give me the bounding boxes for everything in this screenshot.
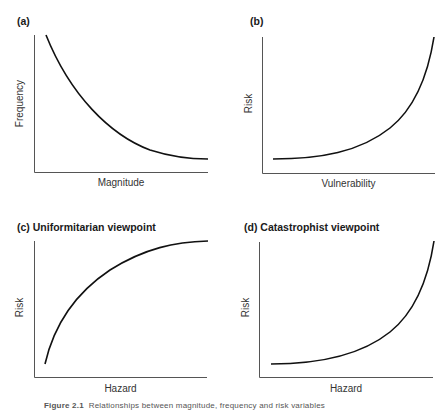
plot-area xyxy=(0,0,448,410)
panel-b-axes xyxy=(263,37,436,174)
panel-a-xlabel: Magnitude xyxy=(34,177,208,188)
panel-a-axes xyxy=(35,35,209,173)
panel-d-axes xyxy=(260,242,434,378)
panel-d-xlabel: Hazard xyxy=(259,383,433,394)
caption-text: Relationships between magnitude, frequen… xyxy=(89,401,325,410)
panel-c-curve xyxy=(45,241,208,364)
panel-b-xlabel: Vulnerability xyxy=(262,178,435,189)
panel-b-ylabel: Risk xyxy=(243,74,254,134)
caption-label: Figure 2.1 xyxy=(44,401,84,410)
figure-caption: Figure 2.1 Relationships between magnitu… xyxy=(44,401,325,410)
panel-a-curve xyxy=(46,35,208,159)
panel-b-curve xyxy=(273,37,434,159)
panel-d-curve xyxy=(271,241,434,364)
panel-a-ylabel: Frequency xyxy=(14,74,25,134)
panel-c-axes xyxy=(35,241,208,378)
panel-c-ylabel: Risk xyxy=(14,278,25,338)
panel-d-ylabel: Risk xyxy=(240,278,251,338)
panel-c-xlabel: Hazard xyxy=(34,383,207,394)
